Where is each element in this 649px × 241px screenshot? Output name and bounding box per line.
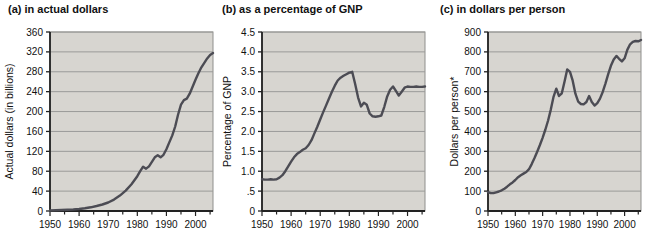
x-tick-label: 2000 <box>613 219 636 230</box>
chart-b-plot: 0.51.01.52.02.53.03.54.04.51950196019701… <box>221 0 432 241</box>
y-tick-label: 500 <box>464 106 481 117</box>
x-tick-label: 1990 <box>586 219 609 230</box>
y-tick-label: 200 <box>26 106 43 117</box>
x-tick-label: 1960 <box>68 219 91 230</box>
y-tick-label: 2.0 <box>241 126 255 137</box>
x-tick-label: 1970 <box>97 219 120 230</box>
y-tick-label: 800 <box>464 46 481 57</box>
y-tick-label: 0 <box>475 206 481 217</box>
x-tick-label: 1990 <box>155 219 178 230</box>
y-tick-label: 700 <box>464 66 481 77</box>
x-tick-label: 1970 <box>532 219 555 230</box>
plot-area <box>262 32 425 211</box>
y-tick-label: 4.5 <box>241 27 255 38</box>
x-tick-label: 1950 <box>477 219 500 230</box>
y-tick-label: 1.5 <box>241 146 255 157</box>
y-tick-label: 300 <box>464 146 481 157</box>
y-tick-label: 0 <box>249 206 255 217</box>
y-tick-label: 2.5 <box>241 106 255 117</box>
y-tick-label: 120 <box>26 146 43 157</box>
chart-a-plot: 0408012016020024028032036019501960197019… <box>0 0 221 241</box>
x-tick-label: 1960 <box>280 219 303 230</box>
y-tick-label: 280 <box>26 66 43 77</box>
y-tick-label: 240 <box>26 86 43 97</box>
y-tick-label: 1.0 <box>241 166 255 177</box>
x-tick-label: 1960 <box>504 219 527 230</box>
y-tick-label: 40 <box>32 186 44 197</box>
x-tick-label: 1980 <box>559 219 582 230</box>
y-tick-label: .5 <box>247 186 256 197</box>
x-tick-label: 1970 <box>309 219 332 230</box>
y-tick-label: 0 <box>37 206 43 217</box>
x-tick-label: 1980 <box>338 219 361 230</box>
x-tick-label: 1990 <box>367 219 390 230</box>
x-tick-label: 1980 <box>126 219 149 230</box>
y-tick-label: 400 <box>464 126 481 137</box>
y-tick-label: 3.5 <box>241 66 255 77</box>
y-axis-title: Dollars per person* <box>448 77 460 167</box>
y-tick-label: 600 <box>464 86 481 97</box>
y-tick-label: 4.0 <box>241 46 255 57</box>
y-axis-title: Actual dollars (in billions) <box>3 63 15 179</box>
y-tick-label: 3.0 <box>241 86 255 97</box>
figure-canvas: (a) in actual dollars 040801201602002402… <box>0 0 649 241</box>
x-tick-label: 2000 <box>184 219 207 230</box>
y-tick-label: 100 <box>464 186 481 197</box>
x-tick-label: 2000 <box>396 219 419 230</box>
y-tick-label: 320 <box>26 46 43 57</box>
x-tick-label: 1950 <box>39 219 62 230</box>
y-tick-label: 80 <box>32 166 44 177</box>
y-tick-label: 900 <box>464 27 481 38</box>
y-axis-title: Percentage of GNP <box>221 76 233 167</box>
y-tick-label: 200 <box>464 166 481 177</box>
y-tick-label: 360 <box>26 27 43 38</box>
x-tick-label: 1950 <box>251 219 274 230</box>
chart-c-plot: 0100200300400500600700800900195019601970… <box>432 0 649 241</box>
y-tick-label: 160 <box>26 126 43 137</box>
